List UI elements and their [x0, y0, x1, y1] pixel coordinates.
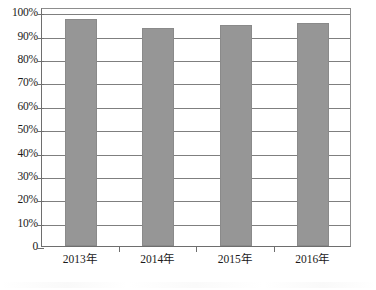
x-axis-category-label: 2014年	[119, 252, 197, 266]
y-axis-tick-label: 100%	[2, 8, 38, 20]
y-axis-tick	[37, 38, 44, 39]
bar	[65, 19, 97, 246]
y-axis-tick-label: 90%	[2, 31, 38, 43]
bar-chart: 100%90%80%70%60%50%40%30%20%10%0 2013年20…	[0, 0, 376, 290]
y-axis-tick	[37, 131, 44, 132]
x-axis-category-label: 2013年	[41, 252, 119, 266]
y-axis-tick-label: 10%	[2, 218, 38, 230]
y-axis-tick	[37, 108, 44, 109]
y-axis-tick	[37, 225, 44, 226]
y-axis-tick-label: 30%	[2, 171, 38, 183]
y-axis-tick	[37, 178, 44, 179]
scan-noise	[0, 282, 376, 288]
y-axis-labels: 100%90%80%70%60%50%40%30%20%10%0	[0, 0, 38, 290]
y-axis-tick-label: 0	[2, 241, 38, 253]
y-axis-tick-label: 40%	[2, 148, 38, 160]
y-axis-tick-label: 60%	[2, 101, 38, 113]
y-axis-tick-label: 70%	[2, 78, 38, 90]
bar	[220, 25, 252, 246]
y-axis-tick	[37, 61, 44, 62]
x-axis-category-label: 2015年	[196, 252, 274, 266]
y-axis-tick-label: 50%	[2, 124, 38, 136]
y-axis-tick	[37, 84, 44, 85]
y-axis-tick-label: 80%	[2, 54, 38, 66]
bar	[297, 23, 329, 246]
y-axis-tick	[37, 14, 44, 15]
plot-area	[41, 8, 351, 247]
y-axis-tick	[37, 248, 44, 249]
y-axis-tick-label: 20%	[2, 195, 38, 207]
x-axis-category-label: 2016年	[274, 252, 352, 266]
gridline	[42, 14, 350, 15]
y-axis-tick	[37, 155, 44, 156]
y-axis-tick	[37, 201, 44, 202]
bar	[142, 28, 174, 247]
